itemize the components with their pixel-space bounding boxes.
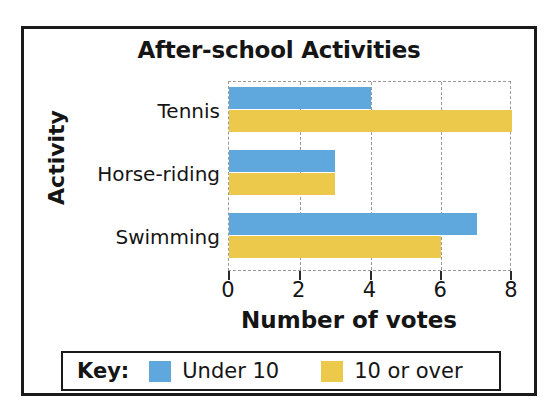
bar-tennis-10-or-over — [229, 110, 512, 132]
x-tick-label-6: 6 — [434, 280, 447, 301]
plot-area — [228, 81, 511, 271]
x-tick-label-4: 4 — [363, 280, 376, 301]
legend-label-under-10: Under 10 — [182, 359, 279, 383]
x-tick-label-2: 2 — [292, 280, 305, 301]
y-tick-label-group: Tennis Horse-riding Swimming — [24, 81, 228, 271]
legend-entry-10-or-over: 10 or over — [321, 359, 462, 383]
legend: Key: Under 10 10 or over — [61, 351, 501, 391]
x-tick-label-8: 8 — [504, 280, 517, 301]
legend-entry-under-10: Under 10 — [149, 359, 279, 383]
y-tick-label-swimming: Swimming — [115, 227, 220, 247]
legend-label-10-or-over: 10 or over — [354, 359, 462, 383]
y-tick-label-horse-riding: Horse-riding — [97, 164, 220, 184]
x-axis-title: Number of votes — [164, 307, 534, 333]
legend-swatch-under-10 — [149, 361, 171, 382]
x-tick-label-0: 0 — [221, 280, 234, 301]
bar-horse-riding-10-or-over — [229, 173, 335, 195]
chart-title: After-school Activities — [24, 37, 534, 63]
y-tick-label-tennis: Tennis — [158, 101, 220, 121]
legend-title: Key: — [77, 359, 129, 383]
x-tick-label-group: 0 2 4 6 8 — [228, 280, 511, 306]
legend-swatch-10-or-over — [321, 361, 343, 382]
chart-figure: After-school Activities Activity Tennis … — [21, 26, 537, 396]
bar-horse-riding-under-10 — [229, 150, 335, 172]
bar-swimming-under-10 — [229, 213, 477, 235]
bar-swimming-10-or-over — [229, 236, 441, 258]
bar-tennis-under-10 — [229, 87, 371, 109]
